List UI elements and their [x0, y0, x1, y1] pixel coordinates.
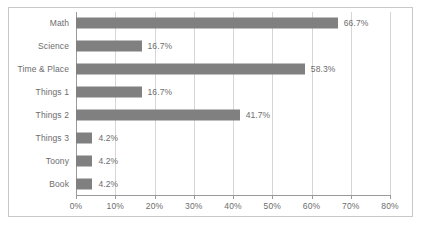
x-tick-label: 50%: [264, 201, 281, 211]
category-label: Things 3: [36, 133, 69, 143]
category-label: Math: [50, 18, 69, 28]
bar: [76, 155, 92, 166]
x-tick-label: 60%: [303, 201, 320, 211]
x-tick-label: 20%: [146, 201, 163, 211]
tick-mark: [351, 195, 352, 199]
bar: [76, 41, 142, 52]
x-tick-label: 40%: [224, 201, 241, 211]
x-tick-label: 0%: [70, 201, 83, 211]
category-label: Things 2: [36, 110, 69, 120]
category-label: Toony: [46, 156, 69, 166]
category-label: Time & Place: [18, 64, 69, 74]
bar-value-label: 16.7%: [148, 87, 173, 97]
x-tick-label: 30%: [185, 201, 202, 211]
tick-mark: [194, 195, 195, 199]
tick-mark: [76, 195, 77, 199]
bar-value-label: 41.7%: [246, 110, 271, 120]
gridline-80: [390, 12, 391, 195]
bar-row: Science16.7%: [76, 35, 390, 58]
bar-row: Toony4.2%: [76, 149, 390, 172]
bar: [76, 64, 305, 75]
bar-row: Book4.2%: [76, 172, 390, 195]
bar-chart: Math66.7%Science16.7%Time & Place58.3%Th…: [0, 0, 423, 228]
x-tick-label: 70%: [342, 201, 359, 211]
bar: [76, 178, 92, 189]
tick-mark: [115, 195, 116, 199]
category-label: Science: [38, 41, 69, 51]
bar-row: Things 34.2%: [76, 126, 390, 149]
tick-mark: [272, 195, 273, 199]
x-tick-label: 10%: [107, 201, 124, 211]
tick-mark: [233, 195, 234, 199]
bar-row: Things 241.7%: [76, 104, 390, 127]
bar: [76, 132, 92, 143]
bar-value-label: 4.2%: [98, 133, 118, 143]
bar-value-label: 66.7%: [344, 18, 369, 28]
bar: [76, 109, 240, 120]
category-label: Things 1: [36, 87, 69, 97]
bar-row: Things 116.7%: [76, 81, 390, 104]
bar-value-label: 58.3%: [311, 64, 336, 74]
bar-row: Time & Place58.3%: [76, 58, 390, 81]
tick-mark: [312, 195, 313, 199]
bar: [76, 87, 142, 98]
tick-mark: [155, 195, 156, 199]
x-tick-label: 80%: [381, 201, 398, 211]
category-label: Book: [49, 179, 69, 189]
bar-value-label: 4.2%: [98, 179, 118, 189]
bar-row: Math66.7%: [76, 12, 390, 35]
bar: [76, 18, 338, 29]
plot-area: Math66.7%Science16.7%Time & Place58.3%Th…: [76, 12, 390, 195]
tick-mark: [390, 195, 391, 199]
bar-value-label: 16.7%: [148, 41, 173, 51]
bar-value-label: 4.2%: [98, 156, 118, 166]
